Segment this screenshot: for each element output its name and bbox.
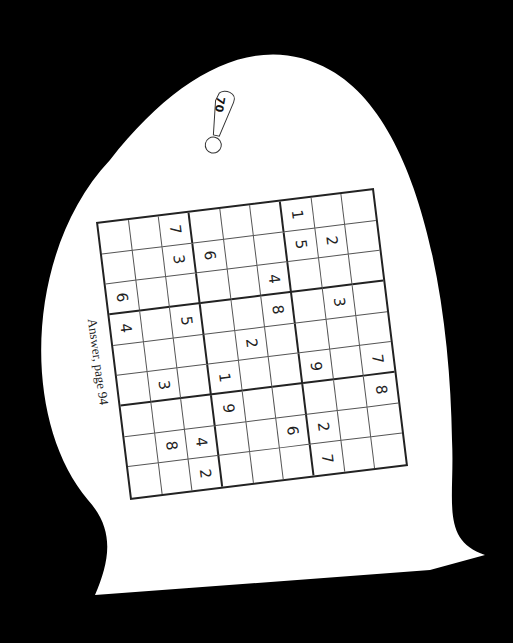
sudoku-cell[interactable]	[342, 190, 376, 224]
sudoku-cell[interactable]	[216, 422, 250, 456]
cell-digit: 9	[306, 360, 325, 372]
sudoku-cell[interactable]	[178, 365, 212, 399]
cell-digit: 5	[292, 239, 311, 251]
sudoku-cell[interactable]	[204, 331, 238, 365]
cell-digit: 7	[318, 452, 337, 464]
sudoku-cell[interactable]	[292, 289, 326, 323]
sudoku-cell[interactable]	[140, 308, 174, 342]
cell-digit: 8	[268, 304, 287, 316]
sudoku-cell[interactable]	[224, 236, 258, 270]
sudoku-cell[interactable]	[113, 342, 147, 376]
cell-digit: 6	[283, 425, 302, 437]
sudoku-cell[interactable]	[102, 251, 136, 285]
sudoku-cell[interactable]	[201, 300, 235, 334]
cell-digit: 2	[242, 338, 261, 350]
sudoku-cell[interactable]	[159, 460, 193, 494]
sudoku-cell[interactable]: 4	[258, 262, 292, 296]
sudoku-cell[interactable]	[219, 452, 253, 486]
sudoku-cell[interactable]	[144, 338, 178, 372]
sudoku-cell[interactable]: 2	[235, 327, 269, 361]
sudoku-cell[interactable]: 3	[322, 285, 356, 319]
sudoku-cell[interactable]	[265, 323, 299, 357]
sudoku-cell[interactable]	[128, 464, 162, 498]
sudoku-cell[interactable]: 5	[170, 304, 204, 338]
cell-digit: 9	[219, 402, 238, 414]
sudoku-cell[interactable]: 8	[364, 373, 398, 407]
sudoku-cell[interactable]: 6	[277, 414, 311, 448]
sudoku-cell[interactable]: 2	[315, 224, 349, 258]
sudoku-cell[interactable]	[319, 255, 353, 289]
cell-digit: 1	[288, 208, 307, 220]
sudoku-cell[interactable]	[124, 433, 158, 467]
sudoku-cell[interactable]	[337, 407, 371, 441]
sudoku-cell[interactable]	[250, 201, 284, 235]
sudoku-cell[interactable]	[250, 449, 284, 483]
cell-digit: 2	[314, 422, 333, 434]
sudoku-cell[interactable]: 9	[212, 392, 246, 426]
sudoku-cell[interactable]	[174, 334, 208, 368]
sudoku-cell[interactable]	[227, 266, 261, 300]
cell-digit: 8	[162, 440, 181, 452]
sudoku-cell[interactable]	[190, 209, 224, 243]
sudoku-cell[interactable]: 3	[163, 243, 197, 277]
sudoku-cell[interactable]	[330, 346, 364, 380]
sudoku-cell[interactable]	[273, 384, 307, 418]
sudoku-cell[interactable]	[136, 277, 170, 311]
sudoku-cell[interactable]	[197, 270, 231, 304]
sudoku-cell[interactable]	[182, 395, 216, 429]
sudoku-cell[interactable]	[341, 437, 375, 471]
sudoku-cell[interactable]	[357, 312, 391, 346]
sudoku-cell[interactable]	[296, 319, 330, 353]
cell-digit: 6	[200, 250, 219, 262]
sudoku-board: 7136526445832319798846227	[96, 188, 408, 500]
sudoku-cell[interactable]: 2	[189, 456, 223, 490]
cell-digit: 7	[166, 224, 185, 236]
sudoku-cell[interactable]: 8	[262, 293, 296, 327]
sudoku-cell[interactable]: 2	[307, 411, 341, 445]
sudoku-cell[interactable]: 4	[185, 426, 219, 460]
sudoku-cell[interactable]: 7	[159, 213, 193, 247]
sudoku-cell[interactable]	[349, 251, 383, 285]
sudoku-cell[interactable]	[326, 316, 360, 350]
sudoku-cell[interactable]	[242, 388, 276, 422]
sudoku-cell[interactable]: 7	[311, 441, 345, 475]
sudoku-cell[interactable]	[231, 296, 265, 330]
cell-digit: 6	[113, 291, 132, 303]
sudoku-cell[interactable]: 6	[193, 239, 227, 273]
sudoku-cell[interactable]	[303, 380, 337, 414]
sudoku-cell[interactable]: 1	[281, 198, 315, 232]
cell-digit: 5	[177, 315, 196, 327]
sudoku-cell[interactable]: 9	[300, 350, 334, 384]
sudoku-cell[interactable]	[239, 357, 273, 391]
sudoku-cell[interactable]	[254, 232, 288, 266]
sudoku-cell[interactable]	[372, 434, 406, 468]
sudoku-cell[interactable]	[121, 403, 155, 437]
sudoku-cell[interactable]	[151, 399, 185, 433]
sudoku-cell[interactable]: 7	[360, 342, 394, 376]
cell-digit: 4	[116, 322, 135, 334]
sudoku-cell[interactable]	[334, 377, 368, 411]
cell-digit: 2	[196, 468, 215, 480]
sudoku-cell[interactable]	[246, 418, 280, 452]
sudoku-cell[interactable]: 3	[147, 369, 181, 403]
sudoku-cell[interactable]	[132, 247, 166, 281]
sudoku-cell[interactable]	[353, 282, 387, 316]
sudoku-cell[interactable]: 8	[155, 429, 189, 463]
sudoku-cell[interactable]	[220, 205, 254, 239]
sudoku-cell[interactable]	[345, 221, 379, 255]
sudoku-cell[interactable]: 6	[106, 281, 140, 315]
sudoku-cell[interactable]: 1	[208, 361, 242, 395]
sudoku-cell[interactable]	[98, 220, 132, 254]
sudoku-cell[interactable]	[368, 403, 402, 437]
sudoku-cell[interactable]	[167, 274, 201, 308]
sudoku-cell[interactable]	[280, 445, 314, 479]
sudoku-cell[interactable]: 4	[109, 311, 143, 345]
cell-digit: 3	[329, 296, 348, 308]
sudoku-cell[interactable]	[269, 354, 303, 388]
sudoku-grid: 7136526445832319798846227	[96, 188, 408, 500]
sudoku-cell[interactable]	[129, 216, 163, 250]
sudoku-cell[interactable]: 5	[285, 228, 319, 262]
sudoku-cell[interactable]	[311, 194, 345, 228]
sudoku-cell[interactable]	[117, 372, 151, 406]
sudoku-cell[interactable]	[288, 259, 322, 293]
